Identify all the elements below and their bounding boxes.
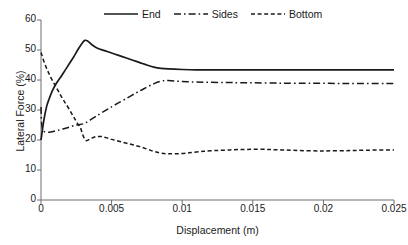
legend-swatch-dashdot-icon [174, 10, 208, 18]
lateral-force-chart: Lateral Force (%) Displacement (m) 01020… [0, 0, 408, 245]
legend-item-sides: Sides [174, 9, 238, 20]
y-tick-label: 10 [6, 163, 36, 174]
chart-legend: End Sides Bottom [104, 9, 322, 20]
y-tick-label: 30 [6, 103, 36, 114]
x-tick-label: 0.025 [381, 203, 406, 214]
x-tick-label: 0.005 [99, 203, 124, 214]
x-tick-label: 0 [38, 203, 44, 214]
legend-label-end: End [142, 9, 161, 20]
y-tick-label: 50 [6, 43, 36, 54]
legend-label-bottom: Bottom [289, 9, 322, 20]
series-line-sides [41, 81, 394, 133]
plot-area [0, 0, 408, 245]
x-axis-title: Displacement (m) [41, 224, 394, 236]
x-tick-label: 0.015 [240, 203, 265, 214]
series-line-end [41, 40, 394, 140]
legend-item-end: End [104, 9, 161, 20]
legend-item-bottom: Bottom [251, 9, 322, 20]
legend-swatch-solid-icon [104, 10, 138, 18]
y-tick-label: 40 [6, 73, 36, 84]
legend-swatch-dashed-icon [251, 10, 285, 18]
series-line-bottom [41, 52, 394, 153]
y-tick-label: 20 [6, 133, 36, 144]
y-tick-label: 60 [6, 13, 36, 24]
x-tick-label: 0.01 [172, 203, 191, 214]
x-tick-label: 0.02 [314, 203, 333, 214]
legend-label-sides: Sides [212, 9, 238, 20]
y-tick-label: 0 [6, 193, 36, 204]
